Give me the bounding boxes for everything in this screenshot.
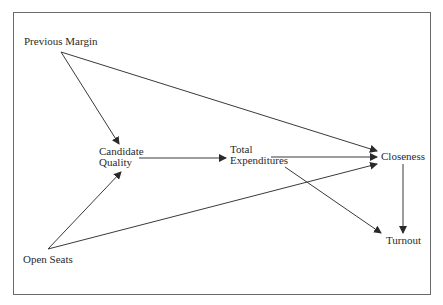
node-candidate-quality: Candidate Quality	[99, 146, 144, 168]
edge-previous-margin-to-candidate-quality	[61, 52, 119, 144]
node-candidate-quality-line2: Quality	[99, 157, 144, 168]
node-total-expenditures: Total Expenditures	[230, 144, 288, 166]
edge-open-seats-to-closeness	[48, 164, 377, 249]
node-open-seats-label: Open Seats	[23, 254, 73, 265]
node-turnout-label: Turnout	[386, 235, 421, 246]
node-previous-margin-label: Previous Margin	[24, 36, 97, 47]
node-total-expenditures-line2: Expenditures	[230, 155, 288, 166]
edge-open-seats-to-candidate-quality	[48, 172, 121, 249]
node-open-seats: Open Seats	[23, 254, 73, 265]
node-previous-margin: Previous Margin	[24, 36, 97, 47]
edge-total-expenditures-to-turnout	[285, 167, 381, 233]
node-closeness-label: Closeness	[381, 151, 425, 162]
node-turnout: Turnout	[386, 235, 421, 246]
node-closeness: Closeness	[381, 151, 425, 162]
edge-previous-margin-to-closeness	[61, 52, 377, 151]
